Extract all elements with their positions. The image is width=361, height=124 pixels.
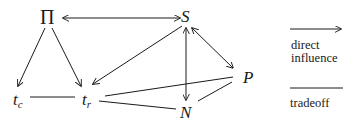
node-n: N (180, 104, 191, 121)
node-tr: tr (82, 91, 91, 110)
legend-tradeoff: tradeoff (290, 97, 329, 110)
legend-direct-line2: influence (291, 52, 338, 65)
node-s-label: S (181, 7, 190, 26)
node-p-label: P (243, 68, 253, 87)
node-pi: Π (40, 7, 54, 27)
node-pi-label: Π (40, 6, 54, 28)
legend-tradeoff-label: tradeoff (290, 96, 329, 110)
node-p: P (243, 69, 253, 86)
node-s: S (181, 8, 190, 25)
edge-tr-n (99, 101, 176, 109)
node-tc-sub: c (18, 98, 23, 110)
edge-s-p (192, 28, 233, 68)
edge-pi-tr (52, 28, 81, 86)
edge-s-tr (93, 26, 182, 84)
node-tr-sub: r (87, 98, 91, 110)
edge-tr-p (105, 77, 233, 96)
node-n-label: N (180, 103, 191, 122)
node-tc: tc (13, 91, 23, 110)
legend-direct-influence: direct influence (291, 39, 338, 65)
edge-p-n (198, 82, 232, 101)
edge-pi-tc (18, 28, 45, 86)
